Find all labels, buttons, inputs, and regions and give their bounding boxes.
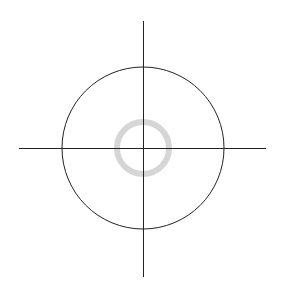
crosshair-diagram bbox=[0, 0, 286, 298]
